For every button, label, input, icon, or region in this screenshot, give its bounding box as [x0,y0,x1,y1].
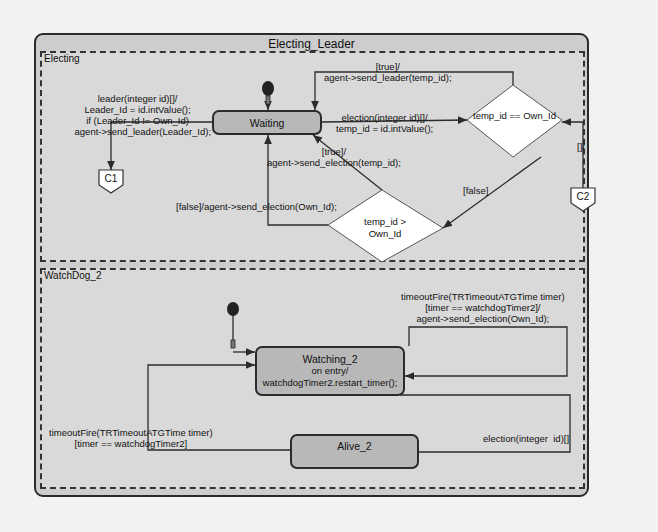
transition-label-timeout[interactable]: timeoutFire(TRTimeoutATGTime timer) [tim… [49,427,213,449]
transition-label-timeout-send-election[interactable]: timeoutFire(TRTimeoutATGTime timer) [tim… [401,291,565,324]
transition-label-true-send-election[interactable]: [true]/ agent->send_election(temp_id); [267,146,401,168]
transition-label-true-send-leader[interactable]: [true]/ agent->send_leader(temp_id); [324,61,452,83]
state-watching-2[interactable]: Watching_2 on entry/ watchdogTimer2.rest… [255,346,405,396]
state-entry-action: on entry/ watchdogTimer2.restart_timer()… [257,365,403,389]
connector-c2[interactable]: C2 [572,191,594,202]
connector-c1[interactable]: C1 [100,173,122,184]
transition-label-false[interactable]: [false] [463,185,488,196]
transition-label-election[interactable]: election(integer id)[]/ temp_id = id.int… [336,112,433,134]
choice-condition[interactable]: temp_id > Own_Id [335,216,435,240]
transition-label-false-send-election[interactable]: [false]/agent->send_election(Own_Id); [176,201,337,212]
transition-label-empty-guard[interactable]: []/ [577,141,585,152]
choice-condition[interactable]: temp_id == Own_Id [467,110,562,122]
transition-label-leader[interactable]: leader(integer id)[]/ Leader_Id = id.int… [64,93,211,137]
state-name: Alive_2 [337,440,371,452]
state-name: Watching_2 [257,353,403,365]
transition-label-election-alive[interactable]: election(integer id)[] [483,433,569,444]
state-alive-2[interactable]: Alive_2 [290,434,419,469]
